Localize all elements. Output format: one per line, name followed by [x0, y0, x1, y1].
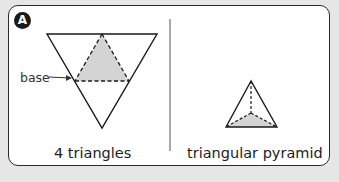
caption-triangular-pyramid: triangular pyramid: [187, 145, 323, 161]
triangular-pyramid: [226, 81, 277, 127]
triangle-net: [47, 34, 157, 128]
caption-4-triangles: 4 triangles: [54, 145, 131, 161]
base-arrow-icon: [49, 75, 72, 81]
base-annotation: base: [20, 70, 50, 85]
